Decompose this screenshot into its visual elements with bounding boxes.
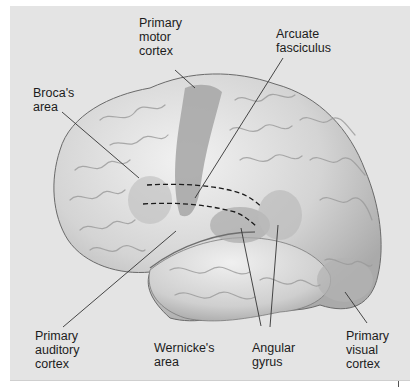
label-angular-gyrus: Angular gyrus bbox=[252, 341, 295, 369]
label-primary-auditory-cortex: Primary auditory cortex bbox=[35, 329, 79, 371]
label-arcuate-fasciculus: Arcuate fasciculus bbox=[276, 27, 331, 55]
label-primary-visual-cortex: Primary visual cortex bbox=[346, 329, 389, 371]
label-primary-motor-cortex: Primary motor cortex bbox=[139, 16, 182, 58]
label-wernickes-area: Wernicke's area bbox=[154, 341, 215, 369]
broca-region bbox=[128, 176, 172, 224]
visual-cortex-region bbox=[317, 258, 373, 302]
angular-gyrus-region bbox=[258, 190, 302, 240]
label-brocas-area: Broca's area bbox=[33, 86, 74, 114]
